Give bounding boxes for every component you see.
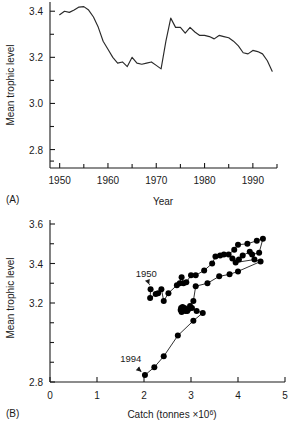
panel-b-x-axis-title: Catch (tonnes ×106) (127, 409, 216, 420)
panel-a-ticks (50, 11, 277, 168)
panel-b-annotation-label: 1950 (136, 268, 157, 279)
panel-b-data-point (254, 238, 260, 244)
panel-b-y-axis-title: Mean trophic level (5, 257, 16, 338)
panel-b-data-point (158, 286, 164, 292)
panel-b-data-point (233, 260, 239, 266)
panel-b-data-point (183, 279, 189, 285)
panel-b-label: (B) (6, 408, 19, 419)
panel-b-data-point (235, 242, 241, 248)
panel-b-data-point (194, 308, 200, 314)
panel-b-xtick-label: 3 (188, 390, 194, 401)
panel-b-xtick-label: 2 (141, 390, 147, 401)
panel-b-data-point (190, 318, 196, 324)
panel-b-data-point (244, 241, 250, 247)
panel-b-data-point (165, 290, 171, 296)
panel-a-ytick-label: 3.2 (29, 52, 43, 63)
panel-b-annotation-arrowhead (145, 279, 150, 285)
panel-b-data-point (182, 308, 188, 314)
panel-b-data-point (142, 372, 148, 378)
panel-a-y-axis-title: Mean trophic level (5, 44, 16, 125)
panel-b-data-point (260, 236, 266, 242)
panel-b-data-point (151, 364, 157, 370)
panel-a-label: (A) (6, 194, 19, 205)
panel-b-ytick-label: 3.2 (29, 298, 43, 309)
panel-b-data-point (235, 268, 241, 274)
panel-b-data-point (247, 249, 253, 255)
panel-a-xtick-label: 1950 (49, 175, 72, 186)
panel-b-xtick-label: 1 (94, 390, 100, 401)
panel-b-data-point (190, 298, 196, 304)
panel-b-ytick-label: 3.4 (29, 259, 43, 270)
panel-b: 0123453.63.43.22.8 19501994 Catch (tonne… (0, 210, 299, 423)
panel-b-data-point (161, 298, 167, 304)
panel-b-annotation-label: 1994 (120, 353, 141, 364)
panel-b-data-point (175, 333, 181, 339)
panel-b-ticks (50, 224, 285, 382)
panel-b-ytick-label: 3.6 (29, 219, 43, 230)
panel-b-markers (142, 236, 266, 378)
panel-a-tick-labels: 195019601970198019903.43.23.02.8 (29, 6, 264, 186)
panel-b-data-point (251, 257, 257, 263)
panel-a-x-axis-title: Year (153, 196, 174, 207)
panel-b-tick-labels: 0123453.63.43.22.8 (29, 219, 288, 401)
panel-b-data-point (161, 353, 167, 359)
panel-b-data-point (193, 272, 199, 278)
panel-a-xtick-label: 1980 (193, 175, 216, 186)
panel-a-plot: 195019601970198019903.43.23.02.8 Year Me… (0, 0, 299, 210)
panel-b-annotations: 19501994 (120, 268, 157, 371)
panel-b-plot: 0123453.63.43.22.8 19501994 Catch (tonne… (0, 210, 299, 423)
panel-a-ytick-label: 3.0 (29, 98, 43, 109)
panel-a: 195019601970198019903.43.23.02.8 Year Me… (0, 0, 299, 210)
panel-b-data-point (193, 283, 199, 289)
panel-a-xtick-label: 1960 (97, 175, 120, 186)
panel-a-xtick-label: 1990 (242, 175, 265, 186)
panel-a-ytick-label: 2.8 (29, 145, 43, 156)
panel-b-data-point (256, 250, 262, 256)
panel-b-xtick-label: 0 (47, 390, 53, 401)
panel-b-data-point (201, 267, 207, 273)
panel-b-data-point (258, 259, 264, 265)
panel-b-ytick-label: 2.8 (29, 377, 43, 388)
panel-b-data-point (179, 274, 185, 280)
panel-b-annotation-arrowhead (136, 366, 141, 371)
panel-a-xtick-label: 1970 (145, 175, 168, 186)
panel-a-data-line (60, 7, 273, 72)
panel-b-data-point (227, 271, 233, 277)
panel-b-xtick-label: 5 (282, 390, 288, 401)
panel-b-data-point (216, 273, 222, 279)
panel-a-ytick-label: 3.4 (29, 6, 43, 17)
panel-b-data-point (147, 295, 153, 301)
panel-b-data-point (148, 286, 154, 292)
panel-b-data-point (200, 310, 206, 316)
panel-b-data-point (231, 247, 237, 253)
panel-b-xtick-label: 4 (235, 390, 241, 401)
figure-container: 195019601970198019903.43.23.02.8 Year Me… (0, 0, 299, 423)
panel-b-data-point (204, 280, 210, 286)
panel-b-data-point (209, 261, 215, 267)
